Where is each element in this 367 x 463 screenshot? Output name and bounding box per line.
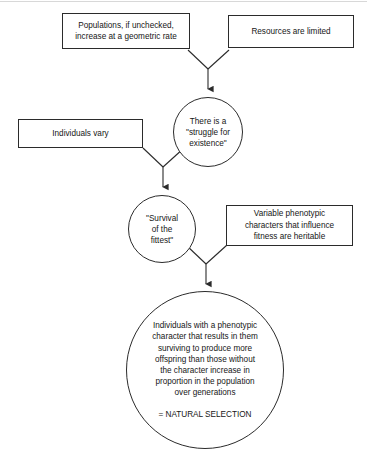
node-populations-label: Populations, if unchecked, increase at a… [75, 20, 176, 43]
connector-merge-to-survival [143, 148, 184, 187]
node-struggle-for-existence: There is a "struggle for existence" [173, 97, 243, 167]
connector-merge-to-natural-selection [186, 245, 227, 284]
node-survival-of-the-fittest-label: "Survival of the fittest" [146, 213, 178, 246]
node-populations: Populations, if unchecked, increase at a… [62, 13, 190, 49]
diagram-canvas: Populations, if unchecked, increase at a… [0, 0, 367, 463]
node-struggle-for-existence-label: There is a "struggle for existence" [186, 116, 230, 149]
node-resources-label: Resources are limited [251, 26, 330, 38]
connector-merge-to-struggle [188, 50, 229, 89]
node-individuals-vary-label: Individuals vary [52, 128, 108, 140]
node-natural-selection-label: Individuals with a phenotypic character … [152, 320, 258, 398]
node-natural-selection-conclusion: = NATURAL SELECTION [152, 409, 258, 420]
node-resources: Resources are limited [228, 15, 354, 48]
node-survival-of-the-fittest: "Survival of the fittest" [128, 195, 196, 263]
node-natural-selection-body: Individuals with a phenotypic character … [152, 320, 258, 420]
node-variable-phenotypic-characters: Variable phenotypic characters that infl… [226, 205, 353, 246]
node-variable-phenotypic-characters-label: Variable phenotypic characters that infl… [245, 208, 334, 243]
node-natural-selection: Individuals with a phenotypic character … [126, 291, 284, 449]
node-individuals-vary: Individuals vary [18, 119, 143, 148]
top-divider-line [0, 1, 367, 2]
